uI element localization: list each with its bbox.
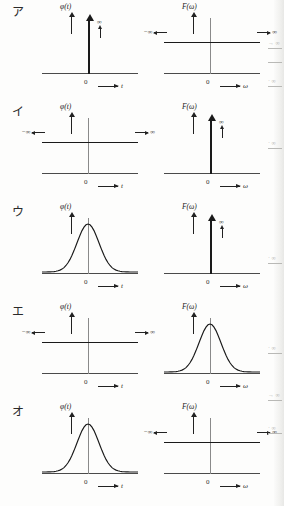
gaussian-curve — [164, 318, 260, 374]
plot-left-constant: φ(t)−∞∞0t — [38, 308, 143, 392]
gaussian-curve — [42, 218, 138, 274]
constant-line — [42, 142, 138, 143]
impulse-arrow — [88, 20, 90, 74]
label-pointer-arrow — [71, 316, 72, 334]
y-axis — [88, 318, 89, 374]
label-pointer-arrow — [71, 116, 72, 134]
plot-right-impulse: F(ω)∞0ω — [160, 108, 265, 192]
neg-infinity-text: −∞ — [144, 28, 152, 35]
row-label: ア — [12, 2, 24, 19]
origin-label: 0 — [206, 78, 210, 86]
origin-label: 0 — [84, 378, 88, 386]
plot-right-constant: F(ω)−∞∞0ω — [160, 408, 265, 492]
axis-variable-text: ω — [243, 282, 248, 290]
axis-arrow-icon — [98, 86, 118, 87]
constant-line — [42, 342, 138, 343]
right-arrow-icon — [257, 32, 270, 33]
axis-arrow-icon — [98, 186, 118, 187]
left-arrow-icon — [154, 432, 167, 433]
axis-variable-text: t — [121, 182, 123, 190]
axis-variable-text: ω — [243, 82, 248, 90]
pos-infinity-text: ∞ — [272, 28, 277, 35]
x-axis-variable: ω — [220, 382, 248, 390]
function-label: F(ω) — [182, 102, 197, 111]
row-label: オ — [12, 402, 24, 419]
figure-row-オ: オφ(t)0tF(ω)−∞∞0ω — [0, 400, 284, 500]
left-arrow-icon — [154, 32, 167, 33]
axis-arrow-icon — [220, 286, 240, 287]
origin-label: 0 — [84, 478, 88, 486]
left-arrow-icon — [32, 132, 45, 133]
label-pointer-arrow — [193, 16, 194, 34]
neg-infinity-text: −∞ — [22, 328, 30, 335]
plot-left-constant: φ(t)−∞∞0t — [38, 108, 143, 192]
x-axis — [164, 473, 260, 474]
label-pointer-arrow — [193, 216, 194, 234]
bleed-bar — [268, 48, 282, 49]
figure-row-イ: イφ(t)−∞∞0tF(ω)∞0ω — [0, 100, 284, 200]
pos-infinity-label: ∞ — [257, 28, 277, 35]
axis-arrow-icon — [220, 386, 240, 387]
figure-row-エ: エφ(t)−∞∞0tF(ω)0ω — [0, 300, 284, 400]
y-axis — [210, 18, 211, 74]
bleed-mark: · ∞ — [268, 345, 282, 355]
function-label: F(ω) — [182, 302, 197, 311]
pos-infinity-label: ∞ — [135, 128, 155, 135]
axis-variable-text: t — [121, 82, 123, 90]
function-label: F(ω) — [182, 202, 197, 211]
pos-infinity-text: ∞ — [150, 328, 155, 335]
bleed-text: · ∞ — [268, 345, 276, 351]
infinity-up-arrow — [222, 228, 223, 238]
impulse-arrow — [210, 220, 212, 274]
x-axis-variable: ω — [220, 282, 248, 290]
neg-infinity-label: −∞ — [22, 328, 45, 335]
axis-variable-text: ω — [243, 182, 248, 190]
pos-infinity-text: ∞ — [150, 128, 155, 135]
origin-label: 0 — [206, 378, 210, 386]
function-label: F(ω) — [182, 2, 197, 11]
function-label: φ(t) — [60, 402, 71, 411]
constant-line — [164, 42, 260, 43]
axis-arrow-icon — [220, 486, 240, 487]
x-axis-variable: ω — [220, 482, 248, 490]
function-label: φ(t) — [60, 2, 71, 11]
plot-right-gaussian: F(ω)0ω — [160, 308, 265, 392]
origin-label: 0 — [84, 178, 88, 186]
axis-variable-text: ω — [243, 382, 248, 390]
bleed-bar — [268, 353, 282, 354]
label-pointer-arrow — [193, 416, 194, 434]
origin-label: 0 — [84, 278, 88, 286]
bleed-bar — [268, 433, 282, 434]
figure-row-ア: アφ(t)∞0tF(ω)−∞∞0ω — [0, 0, 284, 100]
bleed-text: · ∞ — [268, 78, 276, 84]
axis-variable-text: t — [121, 282, 123, 290]
gaussian-curve — [42, 418, 138, 474]
bleed-text: → ∞ — [268, 392, 280, 398]
plot-left-impulse: φ(t)∞0t — [38, 8, 143, 92]
plot-left-gaussian: φ(t)0t — [38, 208, 143, 292]
x-axis-variable: t — [98, 82, 123, 90]
x-axis-variable: t — [98, 382, 123, 390]
axis-arrow-icon — [98, 386, 118, 387]
x-axis-variable: t — [98, 282, 123, 290]
neg-infinity-label: −∞ — [144, 28, 167, 35]
x-axis-variable: t — [98, 182, 123, 190]
neg-infinity-label: −∞ — [144, 428, 167, 435]
function-label: φ(t) — [60, 302, 71, 311]
origin-label: 0 — [84, 78, 88, 86]
x-axis — [164, 173, 260, 174]
neg-infinity-text: −∞ — [22, 128, 30, 135]
bleed-text: · ∞ — [268, 255, 276, 261]
bleed-bar — [268, 148, 282, 149]
origin-label: 0 — [206, 278, 210, 286]
x-axis — [42, 373, 138, 374]
infinity-up-arrow — [222, 128, 223, 138]
y-axis — [88, 118, 89, 174]
scanned-page: アφ(t)∞0tF(ω)−∞∞0ωイφ(t)−∞∞0tF(ω)∞0ωウφ(t)0… — [0, 0, 284, 506]
function-label: φ(t) — [60, 202, 71, 211]
bleed-bar — [268, 86, 282, 87]
row-label: ウ — [12, 202, 24, 219]
axis-arrow-icon — [220, 186, 240, 187]
label-pointer-arrow — [193, 116, 194, 134]
figure-row-ウ: ウφ(t)0tF(ω)∞0ω — [0, 200, 284, 300]
